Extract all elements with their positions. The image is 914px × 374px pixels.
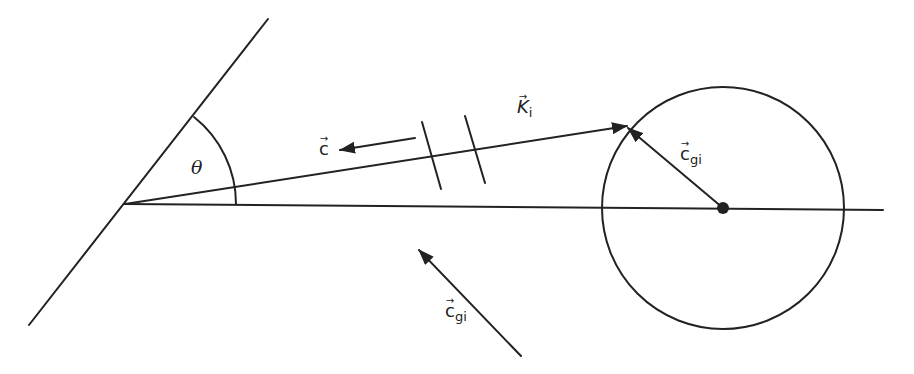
baseline <box>125 204 883 210</box>
center-dot <box>717 202 729 214</box>
k-i-label: →Ki <box>517 98 532 119</box>
c-gi-circle-label: →cgi <box>680 145 702 166</box>
c-vector-arrow <box>340 138 415 150</box>
vector-arrow-icon: → <box>319 134 329 144</box>
c-gi-inner-arrow <box>628 128 723 208</box>
c-label: →c <box>319 140 329 158</box>
vector-arrow-icon: → <box>517 92 529 102</box>
vector-arrow-icon: → <box>445 296 455 306</box>
vector-arrow-icon: → <box>680 139 690 149</box>
theta-label: θ <box>191 158 202 177</box>
c-gi-lower-label: →cgi <box>445 302 467 323</box>
c-gi-lower-arrow <box>419 250 521 356</box>
